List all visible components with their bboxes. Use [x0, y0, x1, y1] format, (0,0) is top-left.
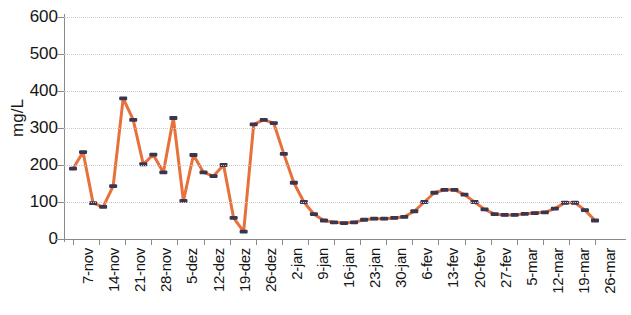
y-tick-mark — [57, 239, 64, 240]
data-point-marker — [230, 216, 238, 220]
data-point-marker — [119, 97, 127, 101]
data-point-marker — [69, 167, 77, 171]
x-tick-label: 6-fev — [418, 248, 435, 280]
data-point-marker — [290, 181, 298, 185]
gridline — [64, 165, 622, 166]
data-point-marker — [240, 230, 248, 234]
data-point-marker — [390, 216, 398, 220]
gridline — [64, 17, 622, 18]
data-point-marker — [370, 217, 378, 221]
x-tick-mark — [308, 239, 309, 245]
x-tick-mark — [543, 239, 544, 245]
data-point-marker — [260, 118, 268, 122]
data-point-marker — [501, 213, 509, 217]
y-tick-label: 500 — [14, 45, 58, 62]
y-tick-mark — [57, 165, 64, 166]
data-point-marker — [400, 215, 408, 219]
y-tick-label: 100 — [14, 193, 58, 210]
x-axis-tick-labels: 7-nov14-nov21-nov28-nov5-dez12-dez19-dez… — [0, 248, 631, 315]
data-point-marker — [461, 193, 469, 197]
gridline — [64, 54, 622, 55]
y-tick-mark — [57, 54, 64, 55]
x-tick-label: 20-fev — [471, 248, 488, 288]
data-point-marker — [541, 210, 549, 214]
data-point-marker — [99, 205, 107, 209]
data-point-marker — [591, 219, 599, 223]
y-tick-mark — [57, 17, 64, 18]
data-point-marker — [189, 153, 197, 157]
x-tick-mark — [438, 239, 439, 245]
x-tick-label: 16-jan — [340, 248, 357, 288]
gridline — [64, 128, 622, 129]
plot-area — [64, 17, 622, 239]
x-tick-mark — [73, 239, 74, 245]
data-point-marker — [129, 118, 137, 122]
x-tick-mark — [256, 239, 257, 245]
data-point-marker — [531, 211, 539, 215]
x-tick-label: 13-fev — [444, 248, 461, 288]
x-tick-label: 19-dez — [236, 248, 253, 292]
x-tick-label: 27-fev — [497, 248, 514, 288]
y-tick-mark — [57, 91, 64, 92]
data-point-marker — [250, 122, 258, 126]
y-tick-label: 400 — [14, 82, 58, 99]
data-point-marker — [551, 207, 559, 211]
data-point-marker — [149, 153, 157, 157]
x-tick-label: 28-nov — [157, 248, 174, 292]
data-point-marker — [380, 217, 388, 221]
x-tick-label: 30-jan — [392, 248, 409, 288]
data-point-marker — [581, 208, 589, 212]
x-tick-label: 5-dez — [183, 248, 200, 284]
data-point-marker — [450, 188, 458, 192]
data-point-marker — [169, 116, 177, 120]
x-tick-mark — [230, 239, 231, 245]
data-point-marker — [481, 208, 489, 212]
data-point-marker — [491, 212, 499, 216]
x-tick-label: 12-mar — [549, 248, 566, 294]
x-tick-mark — [412, 239, 413, 245]
y-axis-tick-labels: 0100200300400500600 — [12, 0, 58, 260]
x-tick-label: 21-nov — [131, 248, 148, 292]
x-tick-mark — [282, 239, 283, 245]
x-tick-mark — [99, 239, 100, 245]
y-tick-mark — [57, 128, 64, 129]
data-point-marker — [280, 152, 288, 156]
x-tick-mark — [204, 239, 205, 245]
data-point-marker — [340, 221, 348, 225]
x-tick-mark — [465, 239, 466, 245]
x-tick-mark — [517, 239, 518, 245]
x-tick-label: 19-mar — [575, 248, 592, 294]
x-tick-label: 14-nov — [105, 248, 122, 292]
data-point-marker — [521, 212, 529, 216]
data-point-marker — [330, 220, 338, 224]
x-tick-label: 26-mar — [601, 248, 618, 294]
data-point-marker — [79, 150, 87, 154]
x-tick-label: 23-jan — [366, 248, 383, 288]
x-tick-mark — [569, 239, 570, 245]
x-tick-mark — [125, 239, 126, 245]
chart-container: mg/L 0100200300400500600 7-nov14-nov21-n… — [0, 0, 631, 315]
data-point-marker — [200, 171, 208, 175]
data-point-marker — [410, 209, 418, 213]
x-tick-mark — [386, 239, 387, 245]
x-tick-mark — [491, 239, 492, 245]
data-point-marker — [440, 188, 448, 192]
x-tick-label: 5-mar — [523, 248, 540, 286]
data-point-marker — [511, 213, 519, 217]
y-tick-label: 300 — [14, 119, 58, 136]
x-tick-mark — [334, 239, 335, 245]
data-point-marker — [270, 121, 278, 125]
x-tick-label: 9-jan — [314, 248, 331, 280]
data-point-marker — [310, 212, 318, 216]
y-tick-label: 200 — [14, 156, 58, 173]
data-point-marker — [210, 174, 218, 178]
gridline — [64, 91, 622, 92]
x-tick-label: 2-jan — [288, 248, 305, 280]
data-point-marker — [430, 191, 438, 195]
data-point-marker — [109, 184, 117, 188]
x-axis-line — [56, 239, 626, 240]
x-tick-mark — [595, 239, 596, 245]
y-tick-label: 0 — [14, 230, 58, 247]
x-tick-label: 7-nov — [79, 248, 96, 284]
data-point-marker — [360, 218, 368, 222]
